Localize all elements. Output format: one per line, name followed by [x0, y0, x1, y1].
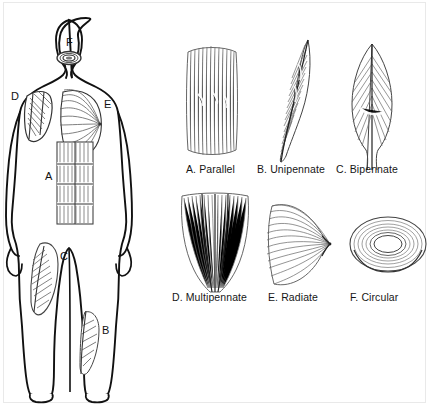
body-key-letter-C: C: [60, 250, 68, 262]
body-key-letter-F: F: [66, 36, 73, 48]
body-muscle-parallel-A: [57, 142, 93, 224]
left-foot-outline: [30, 394, 53, 402]
muscle-type-illustration-bipennate: [352, 44, 392, 170]
body-figure-panel: F D E A C B: [0, 4, 175, 404]
muscle-type-illustration-parallel: [187, 46, 238, 155]
label-type-circular: F. Circular: [350, 291, 398, 303]
body-key-letter-D: D: [11, 90, 19, 102]
right-foot-outline: [86, 394, 109, 402]
body-key-letter-B: B: [102, 324, 109, 336]
muscle-type-illustration-radiate: [267, 205, 331, 285]
body-muscle-circular-F: [57, 52, 81, 65]
label-type-parallel: A. Parallel: [186, 163, 235, 175]
label-type-multipennate: D. Multipennate: [172, 291, 247, 303]
body-figure-svg: F D E A C B: [0, 4, 175, 404]
muscle-type-illustration-unipennate: [280, 40, 310, 162]
body-key-letter-A: A: [45, 170, 53, 182]
muscle-fiber-arrangement-figure: F D E A C B: [0, 0, 430, 409]
label-type-bipennate: C. Bipennate: [336, 163, 398, 175]
body-key-letter-E: E: [104, 98, 111, 110]
leg-separation-line: [69, 248, 70, 392]
label-type-radiate: E. Radiate: [268, 291, 318, 303]
label-type-unipennate: B. Unipennate: [257, 163, 325, 175]
muscle-type-illustration-circular: [350, 217, 426, 272]
muscle-type-illustration-multipennate: [182, 193, 249, 292]
